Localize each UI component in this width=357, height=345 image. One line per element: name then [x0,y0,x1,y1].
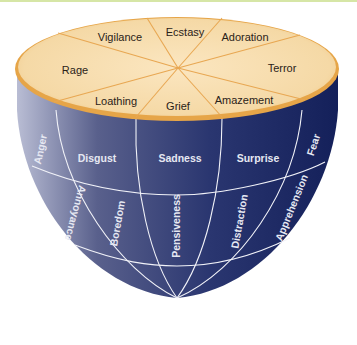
label-disgust: Disgust [78,152,117,164]
label-sadness: Sadness [158,152,201,164]
emotion-cone-diagram: Vigilance Ecstasy Adoration Terror Amaze… [0,0,357,345]
label-grief: Grief [166,100,191,112]
label-pensiveness: Pensiveness [170,194,182,258]
label-surprise: Surprise [237,152,280,164]
label-amazement: Amazement [215,94,274,106]
label-rage: Rage [62,64,88,76]
label-vigilance: Vigilance [98,31,142,43]
label-ecstasy: Ecstasy [166,26,205,38]
label-adoration: Adoration [221,31,268,43]
label-terror: Terror [268,62,297,74]
label-loathing: Loathing [95,95,137,107]
